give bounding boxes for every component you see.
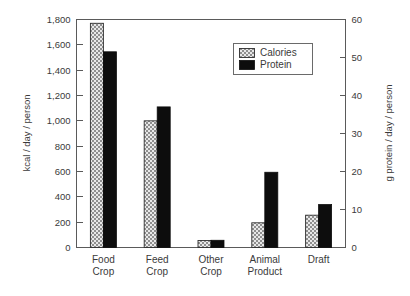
category-label: Product [248,266,283,277]
category-label: Crop [93,266,115,277]
left-tick-label: 1,000 [47,115,71,126]
bar-calories [306,215,319,247]
right-tick-label: 60 [352,14,363,25]
right-tick-label: 20 [352,166,363,177]
left-axis-title: kcal / day / person [21,94,32,171]
category-label: Other [198,254,224,265]
bar-protein [157,107,170,248]
left-tick-label: 1,600 [47,39,71,50]
right-tick-label: 50 [352,52,363,63]
left-tick-label: 600 [55,166,71,177]
right-axis-title: g protein / day / person [383,84,394,181]
right-tick-label: 0 [352,242,357,253]
left-tick-label: 1,400 [47,65,71,76]
legend-swatch-calories [240,49,255,58]
right-tick-label: 10 [352,204,363,215]
bar-protein [265,172,278,247]
left-tick-label: 1,200 [47,90,71,101]
right-tick-label: 40 [352,90,363,101]
category-label: Food [92,254,115,265]
bar-calories [252,223,265,248]
right-tick-label: 30 [352,128,363,139]
chart-legend: Calories Protein [234,44,313,75]
category-label: Crop [200,266,222,277]
category-label: Draft [308,254,330,265]
chart-container: 02004006008001,0001,2001,4001,6001,800 0… [0,0,410,296]
bar-chart: 02004006008001,0001,2001,4001,6001,800 0… [0,0,410,296]
category-label: Feed [146,254,169,265]
left-tick-label: 800 [55,141,71,152]
category-label: Animal [250,254,281,265]
category-label: Crop [146,266,168,277]
left-tick-label: 0 [65,242,70,253]
bar-calories [90,23,103,247]
bar-protein [211,240,224,247]
bar-calories [144,121,157,248]
bar-protein [103,52,116,248]
left-tick-label: 1,800 [47,14,71,25]
left-tick-label: 200 [55,217,71,228]
bar-calories [198,241,211,248]
legend-label-protein: Protein [260,59,292,70]
legend-label-calories: Calories [260,47,297,58]
bar-protein [319,205,332,248]
left-tick-label: 400 [55,191,71,202]
legend-swatch-protein [240,61,255,70]
